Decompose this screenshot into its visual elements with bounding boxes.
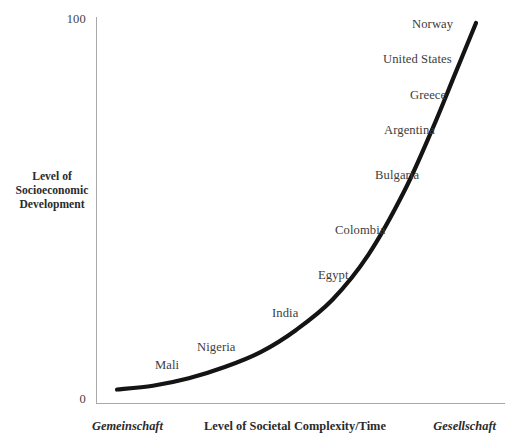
- y-axis-title-line-3: Development: [8, 198, 96, 212]
- y-axis-line: [96, 17, 97, 404]
- y-axis-title: Level of Socioeconomic Development: [8, 170, 96, 213]
- point-label-colombia: Colombia: [335, 223, 385, 238]
- point-label-nigeria: Nigeria: [197, 340, 235, 355]
- y-axis-title-line-2: Socioeconomic: [8, 184, 96, 198]
- x-axis-title: Level of Societal Complexity/Time: [150, 419, 440, 434]
- y-axis-title-line-1: Level of: [8, 170, 96, 184]
- y-axis-tick-0: 0: [36, 392, 86, 407]
- point-label-argentina: Argentina: [384, 123, 435, 138]
- point-label-egypt: Egypt: [318, 268, 349, 283]
- y-axis-tick-100: 100: [36, 12, 86, 27]
- point-label-mali: Mali: [155, 358, 179, 373]
- point-label-united-states: United States: [383, 52, 452, 67]
- curve-svg: [0, 0, 505, 447]
- point-label-norway: Norway: [412, 17, 453, 32]
- chart-figure: 100 0 Level of Socioeconomic Development…: [0, 0, 505, 447]
- point-label-india: India: [272, 306, 298, 321]
- x-axis-right-pole-label: Gesellschaft: [433, 419, 496, 434]
- socioeconomic-development-curve: [117, 23, 476, 390]
- point-label-greece: Greece: [410, 88, 446, 103]
- x-axis-line: [96, 403, 505, 404]
- point-label-bulgaria: Bulgaria: [375, 168, 419, 183]
